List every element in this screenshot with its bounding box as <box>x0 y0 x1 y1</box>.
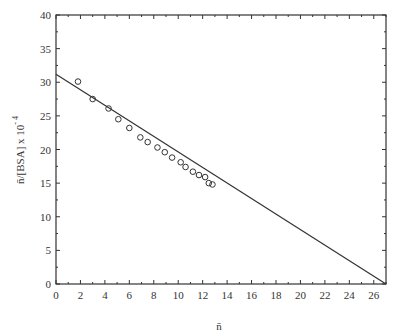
data-point <box>75 79 81 85</box>
y-axis-label-exponent: - 4 <box>11 116 20 125</box>
data-point <box>155 145 161 151</box>
y-tick-label: 0 <box>46 278 52 290</box>
x-tick-label: 16 <box>246 289 258 301</box>
svg-text:n̄/[BSA] x 10- 4: n̄/[BSA] x 10- 4 <box>11 116 26 184</box>
x-tick-label: 22 <box>319 289 330 301</box>
axis-ticks <box>56 15 386 284</box>
x-tick-label: 0 <box>53 289 59 301</box>
data-point <box>127 125 133 131</box>
y-tick-label: 20 <box>40 144 52 156</box>
x-tick-label: 4 <box>102 289 108 301</box>
x-tick-label: 20 <box>295 289 307 301</box>
x-tick-label: 12 <box>197 289 208 301</box>
data-point <box>210 182 216 188</box>
data-point <box>169 155 175 161</box>
data-point <box>183 164 189 170</box>
y-tick-label: 30 <box>40 76 52 88</box>
plot-frame <box>56 15 386 284</box>
fit-line <box>56 74 386 284</box>
x-tick-label: 8 <box>151 289 157 301</box>
x-tick-label: 14 <box>222 289 234 301</box>
x-tick-label: 2 <box>78 289 84 301</box>
scatter-chart: 02468101214161820222426 0510152025303540… <box>0 0 400 336</box>
data-point <box>162 149 168 155</box>
y-tick-label: 35 <box>40 43 52 55</box>
x-tick-label: 26 <box>368 289 380 301</box>
y-tick-labels: 0510152025303540 <box>40 9 52 290</box>
y-tick-label: 10 <box>40 211 52 223</box>
data-point <box>138 135 144 141</box>
x-tick-label: 18 <box>271 289 283 301</box>
data-point <box>145 139 151 145</box>
x-axis-label-text: n̄ <box>216 320 222 332</box>
y-axis-label: n̄/[BSA] x 10- 4 <box>11 116 26 184</box>
x-tick-label: 10 <box>173 289 185 301</box>
data-point <box>202 174 208 180</box>
x-tick-labels: 02468101214161820222426 <box>53 289 380 301</box>
y-tick-label: 15 <box>40 177 52 189</box>
data-point <box>196 172 202 178</box>
y-axis-label-text: n̄/[BSA] x 10 <box>14 124 26 184</box>
x-axis-label: n̄ <box>216 320 222 332</box>
data-point <box>206 180 212 186</box>
data-points <box>75 79 215 187</box>
y-tick-label: 25 <box>40 110 52 122</box>
data-point <box>178 159 184 165</box>
y-tick-label: 40 <box>40 9 52 21</box>
regression-line <box>56 74 386 284</box>
x-tick-label: 24 <box>344 289 356 301</box>
x-tick-label: 6 <box>127 289 133 301</box>
y-tick-label: 5 <box>46 244 52 256</box>
data-point <box>116 116 122 122</box>
data-point <box>190 169 196 175</box>
